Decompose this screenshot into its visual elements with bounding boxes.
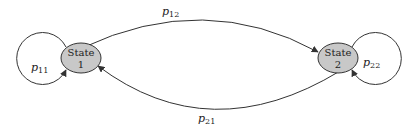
self-loop-p11: p11: [17, 33, 66, 85]
self-loop-p22: p22: [352, 33, 401, 85]
label-p12: p12: [162, 5, 179, 19]
transition-p12: p12: [82, 5, 318, 52]
transition-p21: p21: [98, 66, 340, 126]
state-1-node: State 1: [61, 43, 101, 73]
label-p21: p21: [198, 112, 215, 126]
label-p22: p22: [363, 56, 380, 70]
state-2-label-line2: 2: [335, 59, 341, 70]
state-1-label-line1: State: [68, 47, 95, 58]
state-1-label-line2: 1: [78, 59, 84, 70]
state-2-label-line1: State: [325, 47, 352, 58]
state-2-node: State 2: [318, 43, 358, 73]
markov-diagram: p11 p22 p12 p21 State 1 State 2: [0, 0, 410, 132]
label-p11: p11: [31, 61, 48, 75]
